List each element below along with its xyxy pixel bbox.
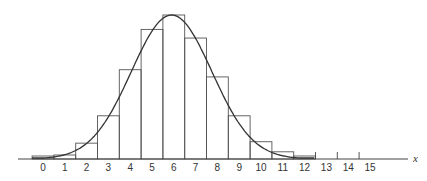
histogram-bar <box>163 15 185 159</box>
x-tick-label: 3 <box>106 162 112 173</box>
histogram-bar <box>228 116 250 159</box>
histogram-bar <box>185 38 207 159</box>
x-tick-label: 13 <box>321 162 333 173</box>
x-tick-label: 10 <box>255 162 267 173</box>
x-tick-label: 12 <box>299 162 311 173</box>
x-tick-label: 15 <box>364 162 376 173</box>
x-tick-label: 8 <box>215 162 221 173</box>
x-tick-label: 9 <box>236 162 242 173</box>
x-tick-label: 0 <box>40 162 46 173</box>
x-tick-label: 1 <box>62 162 68 173</box>
histogram-bar <box>119 70 141 159</box>
x-tick-label: 5 <box>149 162 155 173</box>
histogram-bar <box>207 77 229 159</box>
x-tick-label: 14 <box>343 162 355 173</box>
normal-curve <box>32 15 314 158</box>
x-tick-label: 6 <box>171 162 177 173</box>
x-tick-label: 11 <box>278 162 289 173</box>
histogram-bar <box>141 29 163 159</box>
x-axis-label: x <box>412 152 418 164</box>
x-tick-label: 2 <box>84 162 90 173</box>
x-tick-label: 4 <box>127 162 133 173</box>
x-tick-label: 7 <box>193 162 199 173</box>
histogram-bar <box>76 143 98 159</box>
histogram-bar <box>98 116 120 159</box>
histogram-with-normal-curve: 0123456789101112131415x <box>0 0 427 181</box>
